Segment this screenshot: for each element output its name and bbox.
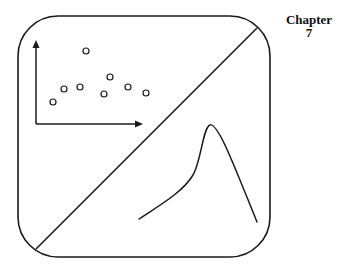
scatter-point — [83, 48, 89, 54]
diagonal-divider-line — [36, 28, 257, 249]
x-axis-arrow-icon — [135, 121, 143, 128]
scatter-plot — [33, 40, 150, 128]
scatter-point — [61, 86, 67, 92]
chapter-number: 7 — [276, 26, 342, 39]
scatter-points — [50, 48, 149, 105]
y-axis-arrow-icon — [33, 40, 40, 48]
scatter-point — [125, 84, 131, 90]
diagram-figure — [0, 0, 348, 269]
scatter-point — [143, 90, 149, 96]
distribution-curve — [139, 125, 257, 222]
chapter-label: Chapter 7 — [276, 13, 342, 39]
scatter-point — [107, 74, 113, 80]
scatter-point — [101, 91, 107, 97]
scatter-point — [50, 99, 56, 105]
scatter-point — [77, 84, 83, 90]
